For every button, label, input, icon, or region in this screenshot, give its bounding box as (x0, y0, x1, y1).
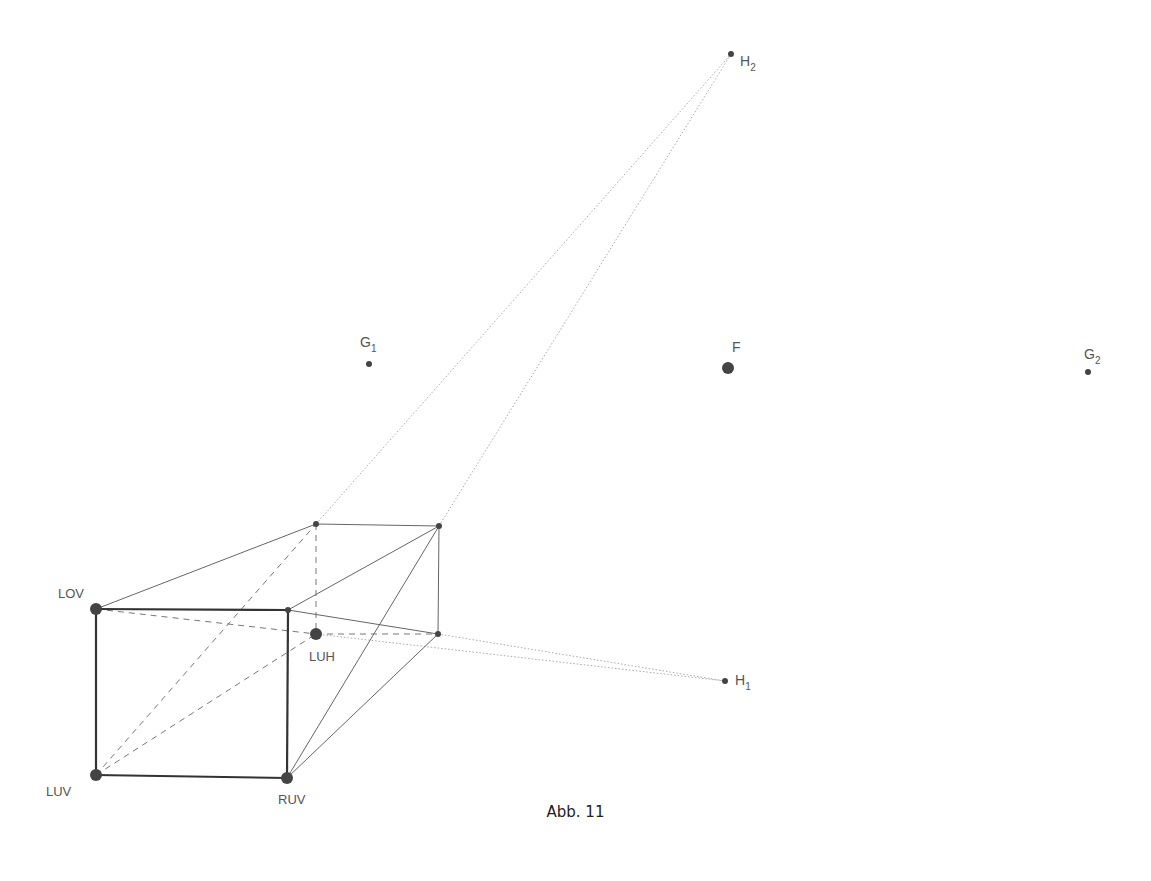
vanishing-lines (316, 54, 731, 681)
edge-luv-luh (96, 634, 316, 775)
point-f[interactable] (722, 362, 734, 374)
edge-lov-luh (96, 609, 316, 634)
points (90, 51, 1091, 784)
edge-rov-roh (288, 526, 439, 610)
point-lov[interactable] (90, 603, 102, 615)
line-ruh-to-h1 (438, 634, 725, 681)
point-luv[interactable] (90, 769, 102, 781)
label-f: F (732, 339, 741, 355)
label-g1: G1 (360, 334, 377, 354)
line-roh-to-h2 (439, 54, 731, 526)
point-ruh[interactable] (435, 631, 441, 637)
edge-rov-ruh (288, 610, 438, 634)
line-loh-to-h2 (316, 54, 731, 524)
perspective-box-diagram: H2 G1 F G2 H1 LOV LUV RUV LUH (0, 0, 1151, 881)
label-g2: G2 (1084, 346, 1101, 366)
visible-edges (96, 524, 439, 778)
edge-lov-loh (96, 524, 316, 609)
point-roh[interactable] (436, 523, 442, 529)
edge-lov-rov (96, 609, 288, 610)
hidden-edges (96, 524, 438, 775)
point-g1[interactable] (366, 361, 372, 367)
labels: H2 G1 F G2 H1 LOV LUV RUV LUH (46, 53, 1101, 807)
front-face (96, 609, 288, 778)
edge-loh-roh (316, 524, 439, 526)
figure-caption: Abb. 11 (0, 803, 1151, 821)
edge-luv-ruv (96, 775, 287, 778)
label-lov: LOV (58, 586, 84, 601)
edge-rov-ruv (287, 610, 288, 778)
edge-roh-ruh (438, 526, 439, 634)
point-h1[interactable] (722, 678, 728, 684)
label-h1: H1 (735, 672, 751, 692)
point-ruv[interactable] (281, 772, 293, 784)
point-loh[interactable] (313, 521, 319, 527)
line-luh-to-h1 (316, 634, 725, 681)
point-luh[interactable] (310, 628, 322, 640)
edge-luv-loh (96, 524, 316, 775)
label-luh: LUH (309, 649, 335, 664)
point-g2[interactable] (1085, 369, 1091, 375)
point-h2[interactable] (728, 51, 734, 57)
point-rov[interactable] (285, 607, 291, 613)
label-luv: LUV (46, 784, 72, 799)
label-h2: H2 (740, 53, 756, 73)
